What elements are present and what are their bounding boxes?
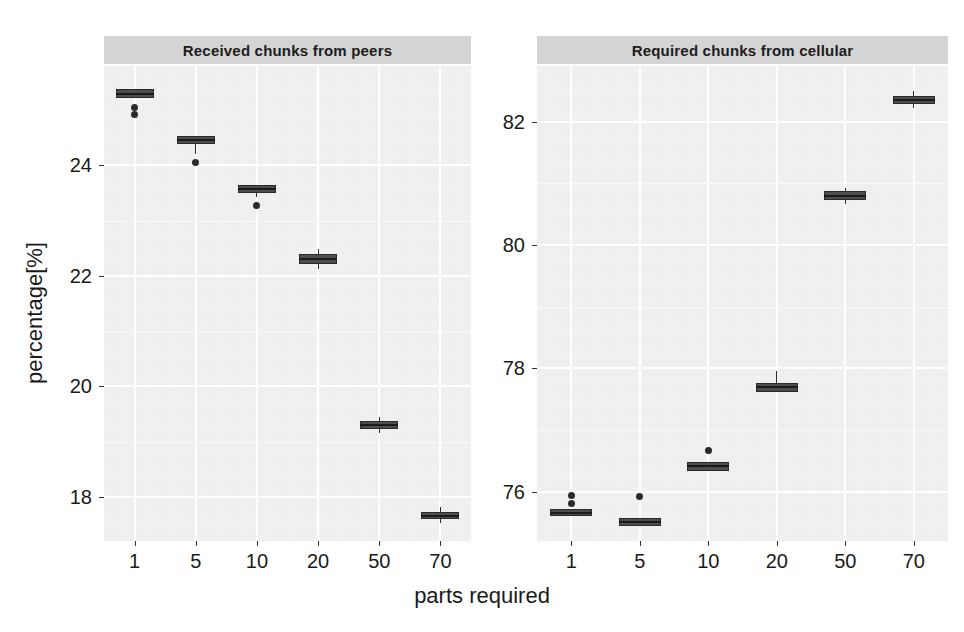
x-tick-label: 20: [288, 550, 348, 573]
x-tick-mark: [379, 541, 380, 546]
whisker-lower: [440, 519, 441, 523]
median-line: [238, 188, 276, 190]
x-tick-label: 50: [349, 550, 409, 573]
grid-line-horizontal-minor: [104, 442, 471, 443]
whisker-upper: [776, 371, 777, 383]
outlier-point: [568, 500, 575, 507]
x-tick-label: 5: [166, 550, 226, 573]
grid-line-vertical: [256, 66, 258, 541]
whisker-lower: [913, 104, 914, 108]
y-tick-mark: [532, 245, 537, 246]
grid-line-horizontal: [537, 121, 948, 123]
y-axis-title: percentage[%]: [22, 173, 48, 453]
median-line: [687, 465, 729, 467]
y-tick-mark: [99, 165, 104, 166]
grid-line-vertical: [776, 66, 778, 541]
x-tick-label: 1: [541, 550, 601, 573]
y-tick-label: 78: [485, 357, 525, 380]
median-line: [550, 512, 592, 514]
grid-line-vertical: [378, 66, 380, 541]
grid-line-horizontal-minor: [537, 307, 948, 308]
grid-line-horizontal-minor: [104, 221, 471, 222]
x-axis-title: parts required: [0, 583, 964, 609]
x-tick-label: 50: [815, 550, 875, 573]
median-line: [116, 93, 154, 95]
whisker-lower: [379, 429, 380, 433]
plot-area-left: [104, 66, 471, 541]
grid-line-horizontal: [537, 491, 948, 493]
y-tick-mark: [99, 497, 104, 498]
median-line: [421, 515, 459, 517]
grid-line-vertical: [844, 66, 846, 541]
x-tick-mark: [708, 541, 709, 546]
whisker-lower: [845, 200, 846, 204]
x-tick-label: 5: [610, 550, 670, 573]
median-line: [756, 386, 798, 388]
panel-title-right: Required chunks from cellular: [537, 36, 948, 64]
x-tick-mark: [135, 541, 136, 546]
grid-line-horizontal: [104, 275, 471, 277]
grid-line-vertical: [439, 66, 441, 541]
x-tick-mark: [777, 541, 778, 546]
grid-line-vertical: [913, 66, 915, 541]
x-tick-label: 10: [227, 550, 287, 573]
x-tick-label: 70: [410, 550, 470, 573]
median-line: [299, 258, 337, 260]
outlier-point: [192, 159, 199, 166]
grid-line-vertical: [134, 66, 136, 541]
y-tick-label: 22: [52, 264, 92, 287]
y-tick-label: 20: [52, 375, 92, 398]
y-tick-label: 76: [485, 480, 525, 503]
grid-line-horizontal: [104, 385, 471, 387]
x-tick-label: 70: [884, 550, 944, 573]
y-tick-mark: [532, 492, 537, 493]
boxplot-figure: percentage[%] parts required Received ch…: [0, 0, 964, 632]
scan-noise-right: [537, 66, 948, 541]
x-tick-mark: [257, 541, 258, 546]
x-tick-mark: [196, 541, 197, 546]
grid-line-horizontal: [537, 244, 948, 246]
scan-noise-left: [104, 66, 471, 541]
x-tick-mark: [845, 541, 846, 546]
y-tick-mark: [532, 122, 537, 123]
whisker-lower: [318, 264, 319, 270]
median-line: [619, 521, 661, 523]
y-tick-mark: [99, 386, 104, 387]
x-tick-label: 10: [678, 550, 738, 573]
y-tick-label: 82: [485, 110, 525, 133]
grid-line-vertical: [639, 66, 641, 541]
y-tick-mark: [99, 276, 104, 277]
grid-line-vertical: [570, 66, 572, 541]
x-tick-mark: [640, 541, 641, 546]
panel-required-chunks-from-cellular: Required chunks from cellular: [537, 36, 948, 541]
y-tick-mark: [532, 368, 537, 369]
x-tick-label: 20: [747, 550, 807, 573]
outlier-point: [636, 493, 643, 500]
panel-received-chunks-from-peers: Received chunks from peers: [104, 36, 471, 541]
outlier-point: [705, 447, 712, 454]
whisker-lower: [195, 144, 196, 154]
grid-line-horizontal: [537, 367, 948, 369]
outlier-point: [131, 104, 138, 111]
y-tick-label: 80: [485, 233, 525, 256]
grid-line-vertical: [317, 66, 319, 541]
median-line: [893, 99, 935, 101]
x-tick-mark: [571, 541, 572, 546]
grid-line-horizontal-minor: [104, 331, 471, 332]
outlier-point: [131, 111, 138, 118]
grid-line-horizontal-minor: [537, 183, 948, 184]
median-line: [177, 139, 215, 141]
plot-area-right: [537, 66, 948, 541]
median-line: [360, 424, 398, 426]
outlier-point: [253, 202, 260, 209]
whisker-lower: [256, 193, 257, 197]
x-tick-mark: [318, 541, 319, 546]
outlier-point: [568, 492, 575, 499]
x-tick-mark: [914, 541, 915, 546]
x-tick-mark: [440, 541, 441, 546]
grid-line-horizontal-minor: [537, 430, 948, 431]
grid-line-horizontal: [104, 496, 471, 498]
median-line: [824, 195, 866, 197]
x-tick-label: 1: [105, 550, 165, 573]
grid-line-horizontal: [104, 164, 471, 166]
